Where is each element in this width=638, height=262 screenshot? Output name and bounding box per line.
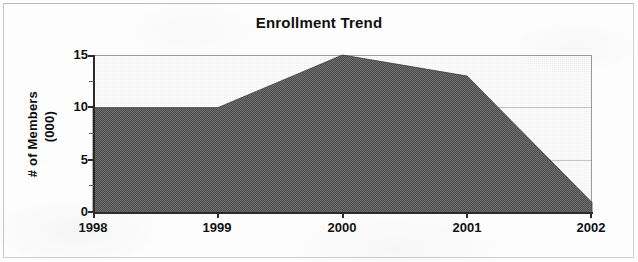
x-tick-1999 (217, 212, 219, 218)
area-series-enrollment (93, 55, 592, 213)
x-tick-label-2000: 2000 (307, 220, 377, 235)
plot-area (93, 55, 592, 213)
y-tick-label-15: 15 (62, 47, 88, 62)
x-tick-label-1999: 1999 (182, 220, 252, 235)
x-tick-2000 (342, 212, 344, 218)
x-tick-label-2002: 2002 (556, 220, 626, 235)
y-tick-minor-12-5 (89, 81, 94, 82)
x-tick-label-2001: 2001 (432, 220, 502, 235)
x-tick-1998 (93, 212, 95, 218)
x-tick-2002 (590, 212, 592, 218)
y-tick-label-0: 0 (62, 204, 88, 219)
y-axis-title-line-2: (000) (42, 111, 57, 156)
y-axis-line (93, 55, 95, 214)
y-axis-title-line-1: # of Members (25, 91, 40, 177)
y-tick-minor-2-5 (89, 185, 94, 186)
x-tick-label-1998: 1998 (58, 220, 128, 235)
y-tick-label-10: 10 (62, 99, 88, 114)
chart-title: Enrollment Trend (0, 14, 638, 31)
y-tick-label-5: 5 (62, 152, 88, 167)
y-tick-major-15 (88, 55, 94, 57)
y-tick-major-5 (88, 159, 94, 161)
y-axis-title: # of Members (000) (18, 55, 64, 213)
y-tick-major-10 (88, 106, 94, 108)
x-tick-2001 (466, 212, 468, 218)
y-tick-minor-7-5 (89, 133, 94, 134)
chart-page: Enrollment Trend # of Members (000) 15 1… (0, 0, 638, 262)
